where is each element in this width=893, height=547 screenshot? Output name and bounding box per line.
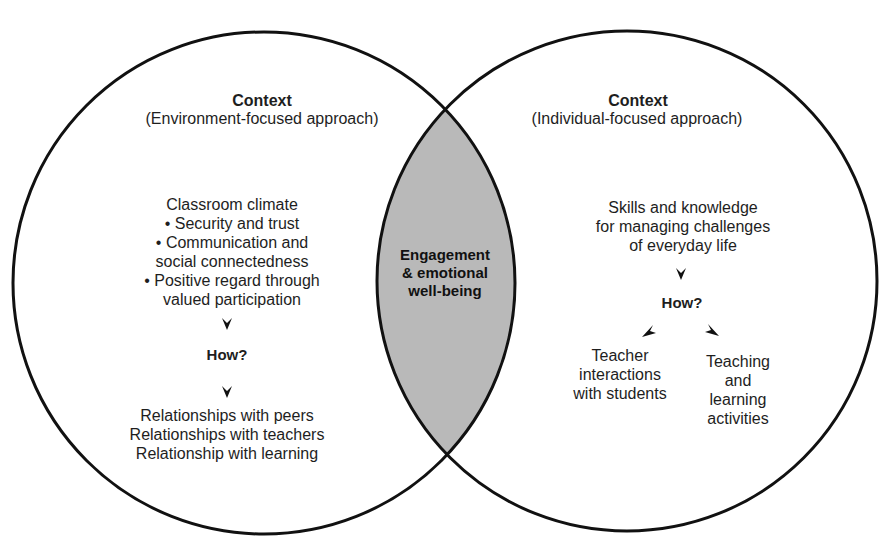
left-context-subtitle: (Environment-focused approach) <box>112 110 412 128</box>
left-context-title: Context <box>162 92 362 110</box>
skills-line: of everyday life <box>563 236 803 255</box>
skills-line: for managing challenges <box>563 217 803 236</box>
left-outcomes-block: Relationships with peers Relationships w… <box>107 406 347 463</box>
branch-line: and <box>688 371 788 390</box>
climate-bullet: • Security and trust <box>112 214 352 233</box>
branch-line: Teaching <box>688 352 788 371</box>
climate-bullet-cont: valued participation <box>112 290 352 309</box>
arrow-down-icon <box>222 386 232 398</box>
right-context-subtitle: (Individual-focused approach) <box>487 110 787 128</box>
branch-line: with students <box>560 384 680 403</box>
branch-teaching-learning: Teaching and learning activities <box>688 352 788 428</box>
arrow-down-left-icon <box>642 325 656 337</box>
right-how-label: How? <box>632 294 732 312</box>
overlap-line: & emotional <box>385 264 505 282</box>
skills-line: Skills and knowledge <box>563 198 803 217</box>
climate-bullet: • Positive regard through <box>112 271 352 290</box>
left-how-label: How? <box>177 346 277 364</box>
overlap-line: Engagement <box>385 246 505 264</box>
branch-line: Teacher <box>560 346 680 365</box>
right-context-title: Context <box>538 92 738 110</box>
branch-line: learning <box>688 390 788 409</box>
climate-bullet: • Communication and <box>112 233 352 252</box>
branch-teacher-interactions: Teacher interactions with students <box>560 346 680 403</box>
overlap-line: well-being <box>385 282 505 300</box>
outcome-item: Relationship with learning <box>107 444 347 463</box>
left-climate-block: Classroom climate • Security and trust •… <box>112 195 352 309</box>
outcome-item: Relationships with teachers <box>107 425 347 444</box>
arrow-down-icon <box>676 268 686 280</box>
arrow-down-icon <box>222 318 232 330</box>
climate-heading: Classroom climate <box>112 195 352 214</box>
outcome-item: Relationships with peers <box>107 406 347 425</box>
arrow-down-right-icon <box>705 324 719 336</box>
branch-line: activities <box>688 409 788 428</box>
right-skills-block: Skills and knowledge for managing challe… <box>563 198 803 255</box>
overlap-label: Engagement & emotional well-being <box>385 246 505 300</box>
climate-bullet-cont: social connectedness <box>112 252 352 271</box>
branch-line: interactions <box>560 365 680 384</box>
